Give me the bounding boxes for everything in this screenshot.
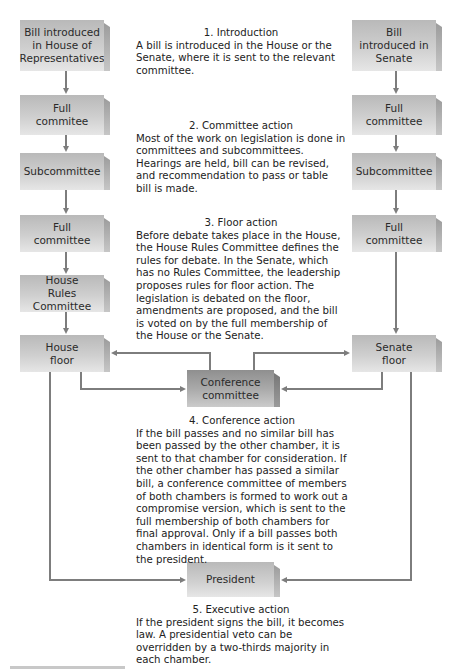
connector-line [395, 190, 397, 209]
arrow-down-icon [393, 146, 399, 152]
senate-full-committee-box: Full committee [352, 95, 436, 135]
arrow-right-icon [180, 577, 186, 583]
box-label: Full committee [348, 221, 441, 247]
step-1-introduction: 1. Introduction A bill is introduced in … [136, 27, 346, 77]
arrow-right-icon [180, 386, 186, 392]
arrow-down-icon [393, 88, 399, 94]
box-label: Conference committee [187, 376, 274, 402]
connector-line [49, 579, 181, 581]
arrow-down-icon [393, 328, 399, 334]
connector-line [395, 252, 397, 329]
house-subcommittee-box: Subcommittee [20, 153, 104, 190]
connector-line [286, 388, 383, 390]
step-heading: 5. Executive action [136, 604, 346, 617]
step-2-committee-action: 2. Committee action Most of the work on … [136, 120, 346, 196]
senate-bill-introduced-box: Bill introduced in Senate [352, 20, 436, 71]
box-label: President [206, 573, 255, 586]
step-body: If the president signs the bill, it beco… [136, 617, 344, 666]
connector-line [286, 579, 412, 581]
senate-floor-box: Senate floor [352, 335, 436, 372]
arrow-down-icon [63, 88, 69, 94]
box-label: House Rules Committee [20, 274, 104, 313]
senate-full-committee-2-box: Full committee [352, 215, 436, 252]
president-box: President [187, 562, 274, 597]
connector-line [395, 71, 397, 89]
connector-line [65, 71, 67, 89]
box-label: Bill introduced in Senate [352, 26, 436, 65]
connector-line [381, 372, 383, 389]
connector-line [209, 352, 211, 370]
step-heading: 3. Floor action [136, 217, 346, 230]
senate-subcommittee-box: Subcommittee [352, 153, 436, 190]
arrow-down-icon [393, 208, 399, 214]
connector-line [80, 372, 82, 389]
connector-line [253, 352, 255, 370]
connector-line [65, 190, 67, 209]
step-body: A bill is introduced in the House or the… [136, 40, 335, 76]
connector-line [65, 252, 67, 269]
arrow-left-icon [281, 386, 287, 392]
box-label: Full commitee [18, 102, 107, 128]
arrow-left-icon [281, 577, 287, 583]
box-label: Full committee [348, 102, 441, 128]
conference-committee-box: Conference committee [187, 370, 274, 407]
connector-line [253, 352, 345, 354]
box-label: Full committee [16, 221, 109, 247]
step-body: Before debate takes place in the House, … [136, 230, 340, 342]
step-3-floor-action: 3. Floor action Before debate takes plac… [136, 217, 346, 343]
box-label: House floor [20, 341, 104, 367]
connector-line [116, 352, 211, 354]
connector-line [65, 312, 67, 329]
connector-line [49, 372, 51, 580]
box-label: Senate floor [352, 341, 437, 367]
house-full-committee-box: Full commitee [20, 95, 104, 135]
step-body: Most of the work on legislation is done … [136, 133, 345, 194]
step-heading: 4. Conference action [136, 415, 348, 428]
footer-divider [10, 666, 125, 669]
arrow-down-icon [63, 328, 69, 334]
step-heading: 1. Introduction [136, 27, 346, 40]
box-label: Subcommittee [356, 165, 433, 178]
house-full-committee-2-box: Full committee [20, 215, 104, 252]
house-floor-box: House floor [20, 335, 104, 372]
step-4-conference-action: 4. Conference action If the bill passes … [136, 415, 348, 566]
connector-line [410, 372, 412, 580]
arrow-down-icon [63, 146, 69, 152]
connector-line [80, 388, 181, 390]
step-heading: 2. Committee action [136, 120, 346, 133]
house-bill-introduced-box: Bill introduced in House of Representati… [20, 20, 104, 71]
box-label: Bill introduced in House of Representati… [20, 26, 105, 65]
box-label: Subcommittee [24, 165, 101, 178]
arrow-left-icon [111, 350, 117, 356]
arrow-down-icon [63, 208, 69, 214]
arrow-down-icon [63, 268, 69, 274]
step-5-executive-action: 5. Executive action If the president sig… [136, 604, 346, 667]
arrow-right-icon [344, 350, 350, 356]
step-body: If the bill passes and no similar bill h… [136, 428, 348, 565]
house-rules-committee-box: House Rules Committee [20, 275, 104, 312]
